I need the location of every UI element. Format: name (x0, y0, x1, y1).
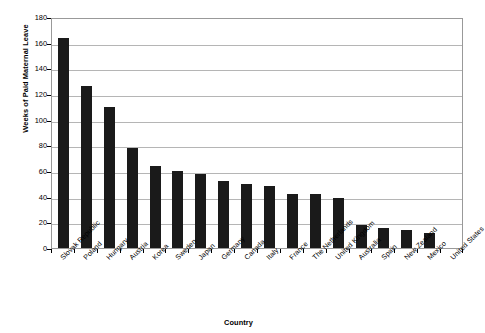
x-axis-category-label: Hungary (105, 237, 130, 262)
x-axis-category-label: Slovak Republic (59, 219, 102, 262)
x-axis-category-label: Mexico (426, 240, 448, 262)
x-axis-category-label: Spain (380, 243, 399, 262)
x-axis-category-label: Italy (265, 246, 280, 261)
x-axis-category-label: United States (449, 225, 485, 262)
x-axis-category-label: Germany (220, 235, 247, 262)
x-axis-title: Country (0, 318, 477, 327)
x-axis-category-label: Canada (243, 238, 267, 262)
x-axis-category-label: Poland (82, 240, 104, 262)
x-axis-category-label: France (288, 240, 310, 262)
x-axis-category-label: Japan (197, 242, 217, 262)
x-axis-category-label: Sweden (174, 237, 198, 261)
x-axis-category-label: Austria (128, 240, 150, 262)
x-axis-category-label: Korea (151, 242, 170, 261)
